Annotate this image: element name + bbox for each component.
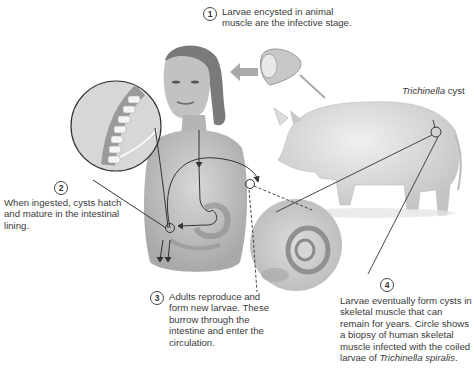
cyst-label-genus: Trichinella bbox=[402, 85, 445, 96]
step-4-text-end: . bbox=[455, 352, 458, 363]
step-2-label: 2 When ingested, cysts hatch and mature … bbox=[4, 181, 129, 231]
intestine-magnified bbox=[71, 81, 161, 171]
step-1-text: Larvae encysted in animal muscle are the… bbox=[222, 6, 353, 29]
muscle-spot-marker bbox=[246, 180, 255, 189]
step-3-text: Adults reproduce and form new larvae. Th… bbox=[169, 291, 275, 348]
cyst-label-rest: cyst bbox=[445, 85, 465, 96]
species-name: Trichinella spiralis bbox=[379, 352, 455, 363]
step-2-text: When ingested, cysts hatch and mature in… bbox=[4, 197, 121, 231]
step-2-number: 2 bbox=[54, 181, 68, 195]
step-1-label: 1 Larvae encysted in animal muscle are t… bbox=[203, 6, 353, 29]
step-4-text: Larvae eventually form cysts in skeletal… bbox=[340, 295, 472, 363]
step-3-number: 3 bbox=[150, 291, 164, 305]
step-4-label: 4 Larvae eventually form cysts in skelet… bbox=[340, 278, 474, 363]
step-1-number: 1 bbox=[203, 7, 217, 21]
step-4-number: 4 bbox=[380, 278, 394, 292]
muscle-biopsy-magnified bbox=[250, 199, 342, 291]
trichinella-cyst-label: Trichinella cyst bbox=[402, 85, 465, 96]
step-3-label: 3 Adults reproduce and form new larvae. … bbox=[150, 291, 275, 348]
meat-cut bbox=[230, 49, 325, 98]
